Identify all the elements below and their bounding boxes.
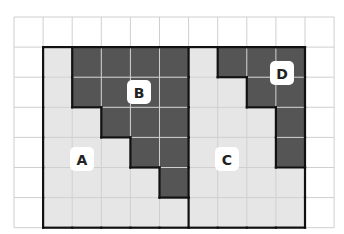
light-cell	[218, 198, 247, 228]
light-cell	[101, 198, 130, 228]
dark-cell	[218, 47, 247, 77]
dark-cell	[130, 107, 159, 137]
light-cell	[189, 198, 218, 228]
light-cell	[189, 137, 218, 167]
light-cell	[189, 107, 218, 137]
light-cell	[72, 107, 101, 137]
label-c: C	[222, 152, 232, 168]
dark-cell	[101, 47, 130, 77]
light-cell	[276, 168, 305, 198]
light-cell	[43, 47, 72, 77]
dark-cell	[160, 137, 189, 167]
dark-cell	[130, 47, 159, 77]
light-cell	[130, 198, 159, 228]
dark-cell	[276, 107, 305, 137]
partition-diagram: A B C D	[0, 0, 344, 234]
label-d-badge: D	[270, 61, 294, 85]
dark-cell	[130, 137, 159, 167]
light-cell	[218, 168, 247, 198]
light-cell	[101, 137, 130, 167]
dark-cell	[276, 137, 305, 167]
dark-cell	[101, 107, 130, 137]
dark-cell	[160, 77, 189, 107]
label-c-badge: C	[215, 147, 239, 171]
light-cell	[130, 168, 159, 198]
light-cell	[43, 198, 72, 228]
light-cell	[247, 168, 276, 198]
light-cell	[72, 198, 101, 228]
dark-cell	[72, 47, 101, 77]
light-cell	[189, 77, 218, 107]
light-cell	[218, 107, 247, 137]
dark-cell	[101, 77, 130, 107]
label-a: A	[77, 152, 88, 168]
label-d: D	[276, 66, 288, 82]
dark-cell	[160, 47, 189, 77]
light-cell	[247, 198, 276, 228]
light-cell	[43, 77, 72, 107]
light-cell	[189, 168, 218, 198]
light-cell	[160, 198, 189, 228]
light-cell	[43, 168, 72, 198]
light-cell	[218, 77, 247, 107]
label-a-badge: A	[70, 147, 94, 171]
light-cell	[43, 107, 72, 137]
light-cell	[72, 168, 101, 198]
dark-cell	[160, 168, 189, 198]
light-cell	[276, 198, 305, 228]
light-cell	[101, 168, 130, 198]
light-cell	[43, 137, 72, 167]
light-cell	[247, 137, 276, 167]
dark-cell	[72, 77, 101, 107]
dark-cell	[160, 107, 189, 137]
light-cell	[247, 107, 276, 137]
label-b-badge: B	[127, 80, 151, 104]
light-cell	[189, 47, 218, 77]
label-b: B	[134, 85, 145, 101]
